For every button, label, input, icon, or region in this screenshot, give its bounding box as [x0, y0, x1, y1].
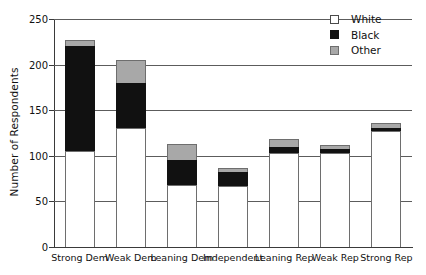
bar-segment-white[interactable]	[320, 153, 350, 247]
bar-segment-black[interactable]	[65, 46, 95, 151]
y-tick-label-50: 50	[4, 196, 48, 207]
white-swatch-icon	[330, 15, 339, 24]
y-tick-label-200: 200	[4, 59, 48, 70]
bar-group[interactable]	[167, 19, 197, 247]
bar-segment-white[interactable]	[218, 186, 248, 247]
x-axis-line	[54, 247, 413, 248]
bar-stack	[371, 123, 401, 247]
y-axis-ticks: 050100150200250	[0, 0, 48, 275]
bar-stack	[218, 168, 248, 247]
bar-stack	[167, 144, 197, 247]
x-tick-label-strong-rep: Strong Rep	[360, 252, 412, 263]
stacked-bar-chart: Number of Respondents 050100150200250 St…	[0, 0, 426, 275]
x-tick-label-leaning-rep: Leaning Rep	[255, 252, 314, 263]
bar-segment-white[interactable]	[116, 128, 146, 247]
bar-group[interactable]	[116, 19, 146, 247]
y-tick-label-0: 0	[4, 242, 48, 253]
bar-segment-black[interactable]	[218, 172, 248, 186]
other-swatch-icon	[330, 46, 339, 55]
bar-stack	[269, 139, 299, 247]
bar-group[interactable]	[269, 19, 299, 247]
x-tick-label-strong-dem: Strong Dem	[51, 252, 108, 263]
bar-segment-white[interactable]	[65, 151, 95, 247]
bar-segment-other[interactable]	[167, 144, 197, 160]
bar-segment-black[interactable]	[167, 160, 197, 185]
legend-label: Black	[351, 30, 379, 41]
legend-item-white[interactable]: White	[330, 14, 382, 25]
bar-segment-white[interactable]	[167, 185, 197, 247]
legend-item-black[interactable]: Black	[330, 30, 382, 41]
y-tick-label-150: 150	[4, 105, 48, 116]
chart-legend: WhiteBlackOther	[330, 14, 382, 56]
bar-stack	[320, 145, 350, 247]
legend-label: Other	[351, 45, 381, 56]
x-tick-label-weak-rep: Weak Rep	[312, 252, 359, 263]
legend-label: White	[351, 14, 382, 25]
black-swatch-icon	[330, 30, 339, 39]
bar-stack	[116, 60, 146, 247]
bar-group[interactable]	[65, 19, 95, 247]
bar-segment-white[interactable]	[269, 153, 299, 247]
y-tick-label-250: 250	[4, 14, 48, 25]
bar-segment-other[interactable]	[116, 60, 146, 83]
x-axis-labels: Strong DemWeak DemLeaning DemIndependent…	[54, 252, 412, 274]
bar-segment-other[interactable]	[269, 139, 299, 146]
y-tick-label-100: 100	[4, 150, 48, 161]
bar-group[interactable]	[218, 19, 248, 247]
legend-item-other[interactable]: Other	[330, 45, 382, 56]
bar-stack	[65, 40, 95, 247]
x-tick-label-weak-dem: Weak Dem	[105, 252, 156, 263]
bar-segment-white[interactable]	[371, 131, 401, 247]
bar-segment-black[interactable]	[116, 83, 146, 129]
